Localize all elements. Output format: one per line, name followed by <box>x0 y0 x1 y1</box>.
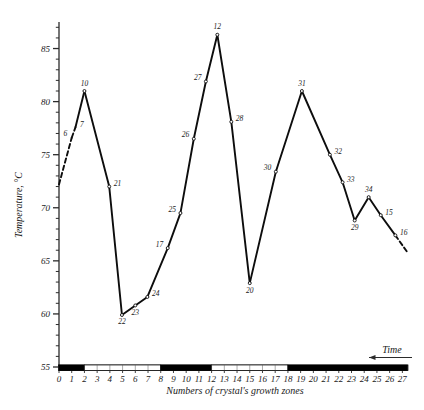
x-axis-tick-label: 7 <box>146 374 151 384</box>
data-point-label: 22 <box>118 317 126 326</box>
data-point-marker <box>83 90 86 93</box>
data-point-label: 25 <box>168 205 176 214</box>
x-axis-tick-label: 10 <box>182 374 192 384</box>
data-point-label: 30 <box>263 163 272 172</box>
x-axis-tick-label: 1 <box>69 374 74 384</box>
data-point-label: 15 <box>385 208 393 217</box>
data-point-label: 34 <box>364 185 373 194</box>
data-point-marker <box>146 295 149 298</box>
x-axis-tick-label: 23 <box>347 374 357 384</box>
data-point-marker <box>216 33 219 36</box>
growth-zone-bar <box>59 365 408 370</box>
x-axis-tick-label: 16 <box>258 374 268 384</box>
x-axis-tick-label: 6 <box>133 374 138 384</box>
data-point-label: 6 <box>63 129 67 138</box>
data-point-marker <box>179 212 182 215</box>
x-axis-tick-label: 19 <box>296 374 306 384</box>
y-axis-title: Temperature, °C <box>13 172 24 238</box>
data-point-marker <box>134 304 137 307</box>
y-axis-tick-label: 85 <box>41 44 51 54</box>
x-axis-tick-label: 25 <box>372 374 382 384</box>
x-axis-tick-label: 8 <box>158 374 163 384</box>
x-axis-tick-label: 18 <box>283 374 293 384</box>
data-point-label: 28 <box>236 114 244 123</box>
x-axis-tick-label: 5 <box>120 374 125 384</box>
x-axis-tick-label: 11 <box>195 374 203 384</box>
x-axis-tick-label: 21 <box>322 374 331 384</box>
data-point-marker <box>367 196 370 199</box>
data-point-label: 17 <box>156 240 164 249</box>
x-axis-tick-label: 9 <box>171 374 176 384</box>
data-point-marker <box>274 170 277 173</box>
x-axis-tick-label: 17 <box>271 374 281 384</box>
y-axis-tick-label: 55 <box>41 362 51 372</box>
data-point-label: 33 <box>346 175 355 184</box>
x-axis-tick-label: 26 <box>385 374 395 384</box>
zone-bar-segment-dark <box>288 365 408 370</box>
data-point-label: 12 <box>214 22 222 31</box>
x-axis-tick-label: 12 <box>207 374 217 384</box>
data-point-label: 21 <box>114 179 122 188</box>
data-point-marker <box>166 247 169 250</box>
x-axis-tick-label: 20 <box>309 374 319 384</box>
x-axis-tick-label: 2 <box>82 374 87 384</box>
x-axis-title: Numbers of crystal's growth zones <box>165 385 303 396</box>
data-point-marker <box>300 90 303 93</box>
data-point-label: 10 <box>81 79 89 88</box>
data-point-marker <box>120 313 123 316</box>
data-point-label: 32 <box>333 147 342 156</box>
data-point-marker <box>230 120 233 123</box>
data-point-marker <box>353 219 356 222</box>
y-axis-tick-label: 70 <box>41 203 51 213</box>
data-point-label: 23 <box>132 308 140 317</box>
data-point-label: 24 <box>152 289 160 298</box>
x-axis-tick-label: 14 <box>233 374 243 384</box>
data-point-label: 29 <box>351 223 359 232</box>
y-axis-tick-label: 75 <box>41 150 51 160</box>
x-axis-tick-label: 3 <box>94 374 100 384</box>
data-point-label: 26 <box>182 130 190 139</box>
x-axis-tick-label: 27 <box>398 374 408 384</box>
data-point-label: 27 <box>194 73 202 82</box>
zone-bar-segment-dark <box>161 365 212 370</box>
chart-background <box>0 0 424 410</box>
x-axis-tick-label: 22 <box>334 374 344 384</box>
data-point-marker <box>248 282 251 285</box>
data-point-marker <box>192 137 195 140</box>
data-point-marker <box>204 80 207 83</box>
data-point-marker <box>394 234 397 237</box>
x-axis-tick-label: 15 <box>245 374 255 384</box>
data-point-marker <box>341 181 344 184</box>
y-axis-tick-label: 80 <box>41 97 51 107</box>
zone-bar-segment-dark <box>59 365 84 370</box>
x-axis-tick-label: 24 <box>360 374 370 384</box>
x-axis-tick-label: 13 <box>220 374 230 384</box>
x-axis-tick-label: 4 <box>108 374 113 384</box>
chart-figure: 55606570758085 0123456789101112131415161… <box>0 0 424 410</box>
data-point-marker <box>108 185 111 188</box>
data-point-marker <box>328 153 331 156</box>
y-axis-tick-label: 60 <box>41 309 51 319</box>
time-arrow-label: Time <box>382 344 402 355</box>
x-axis-tick-label: 0 <box>57 374 62 384</box>
data-point-label: 7 <box>80 120 84 129</box>
data-point-label: 16 <box>400 228 408 237</box>
data-point-label: 31 <box>297 79 306 88</box>
data-point-label: 20 <box>246 286 254 295</box>
temperature-line-chart: 55606570758085 0123456789101112131415161… <box>0 0 424 410</box>
data-point-marker <box>379 214 382 217</box>
y-axis-tick-label: 65 <box>41 256 51 266</box>
